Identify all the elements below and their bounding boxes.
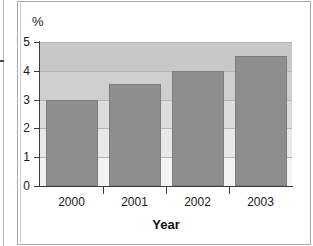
plot-area: [40, 42, 292, 186]
y-axis-line: [39, 41, 40, 187]
chart-figure: % 012345 2000200120022003 Year: [0, 0, 313, 246]
y-axis-tick-label: 3: [0, 94, 30, 106]
y-axis-tick: [34, 100, 39, 101]
y-axis-tick: [34, 128, 39, 129]
y-axis-tick-label: 5: [0, 36, 30, 48]
x-axis-tick-label: 2002: [166, 196, 229, 208]
page-edge-tick-mark: [0, 60, 4, 62]
x-axis-tick: [103, 187, 104, 194]
y-axis-tick-label: 4: [0, 65, 30, 77]
bar-2002: [172, 71, 224, 186]
x-axis-tick-label: 2003: [229, 196, 292, 208]
gridline: [40, 42, 292, 43]
x-axis-title: Year: [40, 217, 292, 232]
x-axis-tick: [166, 187, 167, 194]
bar-2000: [46, 100, 98, 186]
x-axis-tick: [229, 187, 230, 194]
y-axis-tick: [34, 157, 39, 158]
y-axis-tick-label: 1: [0, 151, 30, 163]
y-axis-tick: [34, 186, 39, 187]
bar-2003: [235, 56, 287, 186]
y-axis-tick: [34, 42, 39, 43]
bar-2001: [109, 84, 161, 186]
y-axis-unit-label: %: [32, 14, 44, 29]
y-axis-tick-label: 0: [0, 180, 30, 192]
x-axis-tick-label: 2000: [40, 196, 103, 208]
y-axis-tick-label: 2: [0, 122, 30, 134]
y-axis-tick: [34, 71, 39, 72]
x-axis-tick-label: 2001: [103, 196, 166, 208]
